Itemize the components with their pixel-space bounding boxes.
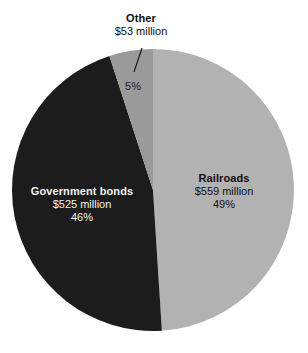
slice-label-government-bonds-value: $525 million — [16, 198, 148, 211]
slice-label-government-bonds: Government bonds $525 million 46% — [16, 185, 148, 224]
pie-chart: Other $53 million 5% Railroads $559 mill… — [0, 0, 308, 353]
slice-label-railroads-title: Railroads — [178, 172, 270, 185]
slice-label-railroads-value: $559 million — [178, 185, 270, 198]
slice-label-other: Other $53 million — [86, 12, 196, 38]
slice-label-railroads-percent: 49% — [178, 198, 270, 211]
slice-label-government-bonds-percent: 46% — [16, 211, 148, 224]
slice-label-other-percent: 5% — [113, 80, 153, 93]
slice-label-government-bonds-title: Government bonds — [16, 185, 148, 198]
slice-label-other-value: $53 million — [86, 25, 196, 38]
slice-label-other-title: Other — [86, 12, 196, 25]
slice-label-railroads: Railroads $559 million 49% — [178, 172, 270, 211]
